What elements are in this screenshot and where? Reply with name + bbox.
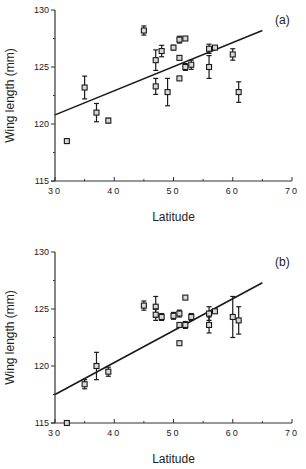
data-point — [177, 341, 182, 346]
square-marker — [64, 421, 69, 426]
data-point — [153, 309, 158, 320]
square-marker — [177, 341, 182, 346]
square-marker — [230, 52, 235, 57]
square-marker — [153, 58, 158, 63]
data-point — [189, 314, 194, 321]
data-point — [177, 322, 182, 327]
square-marker — [141, 303, 146, 308]
data-point — [159, 314, 164, 321]
square-marker — [106, 369, 111, 374]
square-marker — [189, 314, 194, 319]
data-point — [236, 307, 241, 334]
square-marker — [207, 46, 212, 51]
data-point — [141, 301, 146, 310]
data-point — [106, 367, 111, 376]
regression-line — [55, 31, 262, 115]
data-point — [230, 296, 235, 337]
square-marker — [159, 49, 164, 54]
data-point — [183, 36, 188, 41]
x-axis-title: Latitude — [152, 210, 195, 224]
y-axis-title: Wing length (mm) — [3, 48, 17, 143]
square-marker — [212, 309, 217, 314]
square-marker — [183, 65, 188, 70]
square-marker — [207, 322, 212, 327]
x-tick-label: 70 — [285, 428, 299, 438]
y-tick-label: 130 — [34, 247, 49, 257]
data-points — [64, 26, 241, 144]
data-point — [212, 45, 217, 50]
square-marker — [212, 45, 217, 50]
x-axis-title: Latitude — [152, 452, 195, 466]
data-point — [106, 118, 111, 123]
square-marker — [82, 382, 87, 387]
square-marker — [183, 36, 188, 41]
square-marker — [177, 55, 182, 60]
x-tick-label: 30 — [48, 186, 62, 196]
axes: 1151201251303040506070 — [34, 5, 299, 196]
panel-label: (b) — [275, 255, 290, 269]
square-marker — [183, 322, 188, 327]
data-point — [64, 139, 69, 144]
panel-a: 1151201251303040506070 (a) Latitude Wing… — [3, 5, 299, 224]
square-marker — [177, 311, 182, 316]
data-point — [177, 76, 182, 81]
square-marker — [177, 322, 182, 327]
square-marker — [236, 318, 241, 323]
square-marker — [153, 312, 158, 317]
square-marker — [207, 311, 212, 316]
square-marker — [171, 45, 176, 50]
data-point — [64, 421, 69, 426]
data-point — [183, 322, 188, 329]
data-point — [159, 45, 164, 56]
data-point — [230, 49, 235, 60]
x-tick-label: 70 — [285, 186, 299, 196]
square-marker — [141, 28, 146, 33]
panel-label: (a) — [275, 13, 290, 27]
square-marker — [207, 65, 212, 70]
data-point — [171, 45, 176, 50]
y-tick-label: 125 — [34, 62, 49, 72]
square-marker — [64, 139, 69, 144]
data-point — [94, 103, 99, 121]
square-marker — [230, 314, 235, 319]
figure-svg: 1151201251303040506070 (a) Latitude Wing… — [0, 0, 306, 469]
y-tick-label: 115 — [35, 418, 49, 428]
data-point — [94, 352, 99, 379]
square-marker — [171, 313, 176, 318]
square-marker — [82, 85, 87, 90]
data-point — [236, 82, 241, 103]
y-axis-title: Wing length (mm) — [3, 290, 17, 385]
square-marker — [165, 90, 170, 95]
data-point — [153, 78, 158, 94]
square-marker — [159, 314, 164, 319]
x-tick-label: 60 — [226, 428, 240, 438]
square-marker — [236, 90, 241, 95]
x-tick-label: 50 — [166, 428, 180, 438]
data-point — [177, 36, 182, 43]
x-tick-label: 60 — [226, 186, 240, 196]
data-point — [153, 50, 158, 71]
square-marker — [177, 37, 182, 42]
data-point — [82, 76, 87, 99]
axes: 1151201251303040506070 — [34, 247, 299, 438]
data-point — [171, 312, 176, 319]
data-point — [207, 56, 212, 79]
panel-b: 1151201251303040506070 (b) Latitude Wing… — [3, 247, 299, 466]
square-marker — [177, 76, 182, 81]
data-points — [64, 295, 241, 425]
x-tick-label: 40 — [107, 428, 121, 438]
x-tick-label: 30 — [48, 428, 62, 438]
data-point — [177, 55, 182, 60]
data-point — [177, 310, 182, 317]
data-point — [165, 78, 170, 105]
square-marker — [183, 295, 188, 300]
y-tick-label: 120 — [34, 361, 49, 371]
data-point — [82, 380, 87, 389]
square-marker — [189, 62, 194, 67]
data-point — [189, 60, 194, 69]
x-tick-label: 50 — [166, 186, 180, 196]
y-tick-label: 120 — [34, 119, 49, 129]
x-tick-label: 40 — [107, 186, 121, 196]
data-point — [212, 309, 217, 314]
square-marker — [94, 110, 99, 115]
